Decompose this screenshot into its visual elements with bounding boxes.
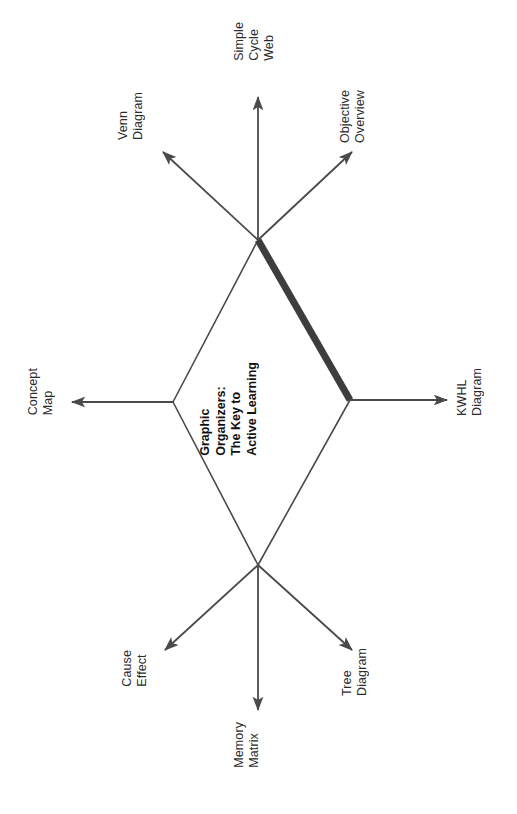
label-line: Map (41, 368, 56, 415)
label-line: KWHL (455, 368, 470, 416)
label-line: Diagram (470, 368, 485, 416)
label-line: Diagram (131, 92, 146, 140)
label-venn-diagram: VennDiagram (116, 92, 146, 140)
label-kwhl-diagram: KWHLDiagram (455, 368, 485, 416)
label-cause-effect: CauseEffect (120, 650, 150, 687)
label-line: Diagram (355, 648, 370, 696)
arrow-objective-overview (258, 152, 352, 240)
diagram-canvas: GraphicOrganizers:The Key toActive Learn… (0, 0, 517, 814)
center-title-line: The Key to (229, 362, 245, 456)
arrow-venn-diagram (163, 152, 258, 240)
label-line: Matrix (247, 722, 262, 768)
label-simple-cycle-web: SimpleCycleWeb (232, 22, 277, 61)
label-line: Cycle (247, 22, 262, 61)
label-line: Effect (135, 650, 150, 687)
label-line: Cause (120, 650, 135, 687)
label-line: Web (262, 22, 277, 61)
label-line: Venn (116, 92, 131, 140)
label-line: Tree (340, 648, 355, 696)
center-title-line: Organizers: (214, 362, 230, 456)
label-objective-overview: ObjectiveOverview (338, 90, 368, 143)
label-tree-diagram: TreeDiagram (340, 648, 370, 696)
label-line: Simple (232, 22, 247, 61)
arrow-cause-effect (165, 565, 258, 650)
label-line: Objective (338, 90, 353, 143)
connector-top-to-right (258, 240, 350, 400)
center-title-line: Active Learning (245, 362, 261, 456)
arrow-tree-diagram (258, 565, 352, 650)
label-line: Overview (353, 90, 368, 143)
label-line: Memory (232, 722, 247, 768)
connector-right-to-bottom (258, 400, 350, 565)
center-title-line: Graphic (198, 362, 214, 456)
label-line: Concept (26, 368, 41, 415)
label-memory-matrix: MemoryMatrix (232, 722, 262, 768)
label-concept-map: ConceptMap (26, 368, 56, 415)
center-title: GraphicOrganizers:The Key toActive Learn… (198, 362, 260, 456)
